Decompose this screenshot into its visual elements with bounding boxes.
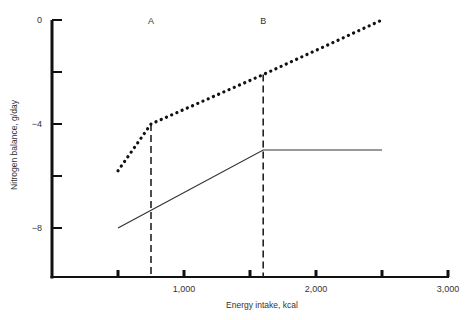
reference-label-b: B [260,16,266,26]
y-axis-title: Nitrogen balance, g/day [9,99,19,190]
series-group [118,20,382,228]
x-tick-label: 2,000 [305,284,328,294]
labels: 0−4−81,0002,0003,000AB [32,15,460,294]
x-axis-title: Energy intake, kcal [226,300,298,310]
reference-label-a: A [148,16,154,26]
nitrogen-balance-chart: 0−4−81,0002,0003,000AB Energy intake, kc… [0,0,470,320]
series-lower-solid [118,150,382,228]
y-tick-label: −4 [32,119,42,129]
y-tick-label: −8 [32,223,42,233]
axes [51,20,450,279]
y-tick-label: 0 [37,15,42,25]
series-upper-dotted [118,20,382,171]
reference-lines [151,75,263,277]
x-tick-label: 3,000 [437,284,460,294]
x-tick-label: 1,000 [173,284,196,294]
